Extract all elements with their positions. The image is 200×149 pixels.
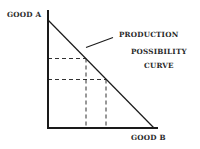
x-axis-label: GOOD B xyxy=(131,133,166,142)
curve-label-line-3: CURVE xyxy=(144,61,174,70)
label-pointer-line xyxy=(86,38,113,48)
y-axis-label: GOOD A xyxy=(7,10,41,19)
curve-label-line-2: POSSIBILITY xyxy=(131,47,187,56)
ppc-diagram: GOOD A PRODUCTION POSSIBILITY CURVE GOOD… xyxy=(0,0,200,149)
curve-label-line-1: PRODUCTION xyxy=(119,30,179,39)
